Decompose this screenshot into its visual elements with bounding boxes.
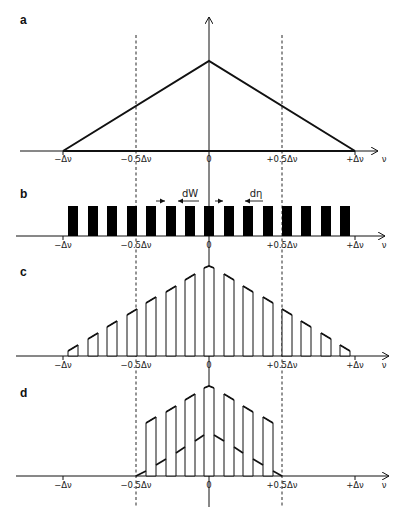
svg-text:ν: ν	[382, 480, 387, 490]
svg-text:−Δν: −Δν	[54, 154, 72, 164]
svg-text:0: 0	[206, 240, 211, 250]
dw-label: dW	[182, 188, 198, 199]
svg-text:0: 0	[206, 360, 211, 370]
svg-text:ν: ν	[382, 360, 387, 370]
svg-text:+Δν: +Δν	[346, 154, 364, 164]
tick-labels-d: −Δν −0.5Δν 0 +0.5Δν +Δν ν	[54, 476, 386, 490]
svg-text:−Δν: −Δν	[54, 480, 72, 490]
svg-text:−0.5Δν: −0.5Δν	[120, 154, 151, 164]
svg-text:ν: ν	[382, 154, 387, 164]
svg-text:−0.5Δν: −0.5Δν	[120, 480, 151, 490]
panel-label-d: d	[20, 386, 27, 400]
tick-labels-a: −Δν −0.5Δν 0 +0.5Δν +Δν ν	[54, 151, 386, 164]
svg-text:0: 0	[206, 480, 211, 490]
svg-text:+0.5Δν: +0.5Δν	[266, 360, 297, 370]
svg-text:−Δν: −Δν	[54, 240, 72, 250]
sampled-bars-c	[68, 266, 350, 356]
panel-c: c	[16, 265, 389, 370]
panel-label-b: b	[20, 187, 27, 201]
panel-label-c: c	[20, 265, 27, 279]
panel-d: d	[16, 386, 389, 490]
bar-comb	[68, 206, 350, 236]
tick-labels-c: −Δν −0.5Δν 0 +0.5Δν +Δν ν	[54, 356, 386, 370]
svg-text:ν: ν	[382, 240, 387, 250]
svg-text:−0.5Δν: −0.5Δν	[120, 360, 151, 370]
svg-text:−0.5Δν: −0.5Δν	[120, 240, 151, 250]
deta-label: dη	[250, 188, 263, 199]
svg-text:+Δν: +Δν	[346, 240, 364, 250]
svg-text:0: 0	[206, 154, 211, 164]
figure-canvas: a −Δν −0.5Δν 0 +0.5Δν +Δν ν b	[0, 0, 404, 507]
panel-a: a −Δν −0.5Δν 0 +0.5Δν +Δν ν	[20, 13, 387, 164]
sampled-bars-d	[146, 386, 273, 476]
svg-text:+Δν: +Δν	[346, 480, 364, 490]
tick-labels-b: −Δν −0.5Δν 0 +0.5Δν +Δν ν	[54, 236, 386, 250]
panel-b: b dW dη −Δν	[16, 187, 387, 250]
svg-text:+0.5Δν: +0.5Δν	[266, 154, 297, 164]
svg-text:+Δν: +Δν	[346, 360, 364, 370]
panel-label-a: a	[20, 13, 27, 27]
svg-text:+0.5Δν: +0.5Δν	[266, 240, 297, 250]
svg-text:+0.5Δν: +0.5Δν	[266, 480, 297, 490]
svg-text:−Δν: −Δν	[54, 360, 72, 370]
